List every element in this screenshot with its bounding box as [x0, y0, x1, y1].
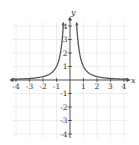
y-tick-label: 1 — [63, 62, 68, 71]
y-tick-label: -3 — [60, 116, 68, 125]
graph: -4-3-2-112344321-1-2-3-4 x y — [0, 0, 139, 145]
x-tick-label: -1 — [53, 82, 60, 91]
y-axis-label: y — [70, 8, 76, 17]
x-axis-label: x — [131, 76, 136, 85]
y-tick-label: 2 — [63, 49, 68, 58]
y-tick-label: -1 — [60, 89, 67, 98]
y-tick-label: -2 — [60, 103, 68, 112]
y-tick-label: 3 — [63, 35, 68, 44]
x-tick-label: 4 — [122, 82, 127, 91]
x-tick-label: 2 — [95, 82, 100, 91]
x-tick-label: -3 — [26, 82, 34, 91]
axes — [9, 17, 131, 139]
x-tick-label: -2 — [39, 82, 47, 91]
y-tick-label: -4 — [60, 130, 68, 139]
x-tick-label: 3 — [108, 82, 113, 91]
x-tick-label: 1 — [81, 82, 86, 91]
x-tick-label: -4 — [12, 82, 20, 91]
